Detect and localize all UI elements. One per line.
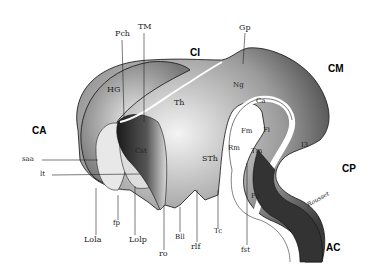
- label-hg: HG: [107, 86, 120, 94]
- label-bll: Bll: [175, 234, 185, 241]
- label-tm-lower: Tm: [251, 148, 262, 155]
- brain-section-drawing: [0, 0, 373, 280]
- label-cst: Cst: [135, 148, 147, 155]
- label-lola: Lola: [84, 236, 101, 244]
- peduncle-ac: [253, 150, 323, 262]
- label-cp: CP: [342, 164, 356, 174]
- label-ca: CA: [32, 126, 46, 136]
- label-rlf: rlf: [191, 243, 200, 251]
- label-fi: Fi: [263, 127, 270, 134]
- label-cm: CM: [328, 64, 344, 74]
- label-saa: saa: [22, 156, 34, 163]
- label-rm: Rm: [228, 145, 240, 152]
- label-lolp: Lolp: [129, 236, 147, 244]
- label-th: Th: [174, 99, 185, 107]
- label-tc: Tc: [214, 228, 222, 235]
- label-ca-lower: Ca: [256, 98, 266, 105]
- label-fp: fp: [113, 220, 120, 227]
- label-ac: AC: [326, 243, 340, 253]
- label-ng: Ng: [233, 82, 244, 89]
- label-i3: I3: [301, 142, 308, 149]
- label-ro: ro: [159, 250, 168, 258]
- label-gp: Gp: [239, 24, 251, 32]
- label-sth: STh: [202, 155, 218, 163]
- label-pch: Pch: [115, 30, 130, 38]
- label-fm: Fm: [241, 128, 253, 135]
- label-pe: Pe: [251, 193, 260, 200]
- label-tm-upper: TM: [138, 23, 152, 31]
- label-fst: fst: [241, 247, 250, 254]
- label-lt: lt: [40, 171, 45, 178]
- label-ci: CI: [190, 48, 200, 58]
